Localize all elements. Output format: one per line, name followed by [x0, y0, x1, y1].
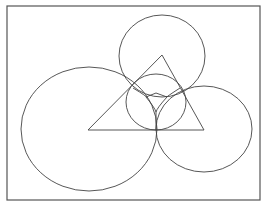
right-circle: [156, 86, 252, 172]
figure-border: [7, 6, 260, 200]
triangle: [88, 55, 204, 130]
geometry-figure: [0, 0, 264, 204]
